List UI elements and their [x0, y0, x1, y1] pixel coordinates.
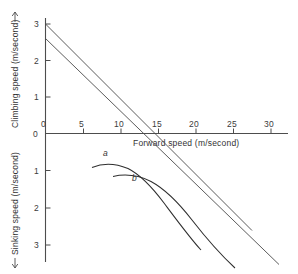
x-tick-label-5: 5	[79, 119, 84, 129]
lower-y-axis-title: Sinking speed (m/second)	[10, 152, 20, 255]
chart-figure: 0 5 10 15 20 25 30 Forward speed (m/seco…	[0, 0, 298, 274]
upper-y-axis-ticks	[46, 24, 51, 97]
upper-y-tick-label-2: 2	[34, 56, 39, 66]
curve-label-a: a	[103, 148, 108, 158]
performance-chart-svg: 0 5 10 15 20 25 30 Forward speed (m/seco…	[0, 0, 298, 274]
upper-y-tick-label-0: 0	[33, 129, 38, 139]
lower-y-tick-label-1: 1	[34, 166, 39, 176]
climb-line-2	[46, 39, 280, 265]
x-tick-label-20: 20	[189, 119, 199, 129]
lower-y-tick-label-3: 3	[34, 240, 39, 250]
climb-line-1	[46, 24, 253, 231]
upper-y-axis-title: Climbing speed (m/second)	[10, 20, 20, 128]
x-axis-ticks	[46, 129, 272, 134]
upper-y-tick-label-1: 1	[34, 92, 39, 102]
x-tick-label-30: 30	[264, 119, 274, 129]
x-axis-title: Forward speed (m/second)	[133, 138, 239, 148]
curve-a	[92, 164, 201, 250]
upper-y-tick-label-3: 3	[34, 19, 39, 29]
x-tick-label-15: 15	[152, 119, 162, 129]
x-tick-label-10: 10	[114, 119, 124, 129]
curve-label-b: b	[132, 173, 137, 183]
x-tick-label-25: 25	[227, 119, 237, 129]
lower-y-axis-ticks	[46, 171, 51, 246]
x-tick-label-0: 0	[41, 119, 46, 129]
curve-b	[113, 175, 235, 268]
lower-y-tick-label-2: 2	[34, 203, 39, 213]
down-arrow-icon	[12, 258, 18, 268]
